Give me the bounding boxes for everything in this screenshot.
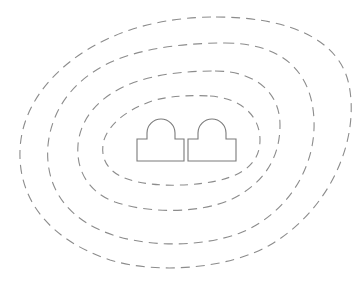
right-arch-block <box>188 119 236 161</box>
contour-ring-outer <box>20 17 351 268</box>
contour-diagram <box>0 0 359 286</box>
left-arch-block <box>137 119 184 161</box>
contour-rings <box>20 17 351 268</box>
arch-blocks <box>137 119 236 161</box>
